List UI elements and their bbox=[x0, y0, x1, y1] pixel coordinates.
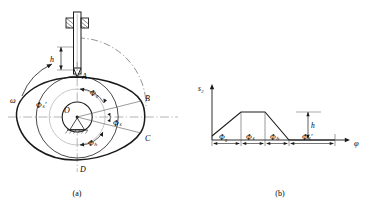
point-label-B: B bbox=[145, 94, 150, 103]
angle-label-near-dwell: Φₛ′ bbox=[36, 101, 47, 110]
x-axis-arrowhead bbox=[345, 138, 350, 142]
segment-dim-rise bbox=[213, 142, 240, 145]
angle-label-far-dwell: Φₛ bbox=[113, 119, 122, 128]
segment-dim-return bbox=[266, 142, 288, 145]
omega-arrow bbox=[22, 64, 52, 96]
segment-dim-far-dwell bbox=[242, 142, 264, 145]
caption-b: (b) bbox=[275, 189, 285, 198]
y-axis-arrowhead bbox=[210, 84, 214, 89]
figure-root: h ω bbox=[0, 0, 377, 210]
point-label-D: D bbox=[79, 165, 86, 174]
guide-bushing-left bbox=[66, 18, 74, 28]
lift-dimension bbox=[57, 47, 74, 70]
chart-lift-label-h: h bbox=[311, 121, 315, 130]
point-label-A: A bbox=[81, 72, 87, 81]
lift-label-h: h bbox=[50, 55, 54, 64]
point-label-C: C bbox=[145, 134, 151, 143]
cam-mechanism-diagram: h ω bbox=[0, 0, 190, 210]
segment-label-rise: Φ₀ bbox=[219, 133, 228, 142]
y-axis-label: s₂ bbox=[198, 84, 204, 93]
x-axis-label: φ bbox=[354, 138, 359, 148]
guide-bushing-right bbox=[81, 18, 89, 28]
point-label-O: O bbox=[64, 106, 70, 115]
arc-far-dwell bbox=[107, 113, 110, 122]
angle-label-rise: Φ₀ bbox=[90, 89, 99, 98]
omega-label: ω bbox=[10, 96, 16, 105]
displacement-diagram: s₂ φ h Φ₀ Φₛ bbox=[190, 0, 377, 210]
segment-dim-near-dwell bbox=[290, 142, 334, 145]
segment-label-near-dwell: Φₛ′ bbox=[302, 133, 313, 142]
segment-label-return: Φₕ bbox=[270, 133, 280, 142]
angle-label-return: Φₕ bbox=[88, 139, 98, 148]
segment-label-far-dwell: Φₛ bbox=[246, 133, 255, 142]
caption-a: (a) bbox=[73, 189, 82, 198]
